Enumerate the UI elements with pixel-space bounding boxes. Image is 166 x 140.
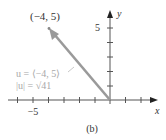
x-axis-label: x <box>154 105 160 116</box>
x-tick-label-neg5: −5 <box>28 106 39 117</box>
point-label: (−4, 5) <box>30 10 60 23</box>
y-tick-label-5: 5 <box>95 22 100 33</box>
x-axis-arrow-icon <box>150 97 158 103</box>
y-axis-arrow-icon <box>107 10 113 18</box>
vector-u <box>54 34 110 100</box>
figure-caption: (b) <box>86 123 98 135</box>
vector-label-u: u = ⟨−4, 5⟩ <box>16 68 60 79</box>
label-leader-line <box>68 67 74 72</box>
y-axis-label: y <box>116 8 122 19</box>
point-marker <box>48 27 51 30</box>
vector-magnitude-label: |u| = √41 <box>16 80 51 91</box>
vector-diagram: (−4, 5) y 5 u = ⟨−4, 5⟩ |u| = √41 −5 x (… <box>0 0 166 140</box>
